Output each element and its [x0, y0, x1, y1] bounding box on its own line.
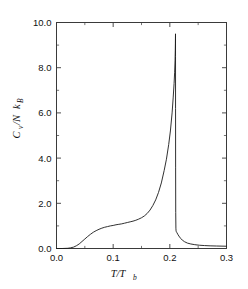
- y-axis-title-subscript-b: B: [16, 98, 25, 103]
- y-axis-title-c: C: [11, 131, 22, 139]
- x-tick-label: 0.3: [220, 252, 233, 263]
- heat-capacity-chart: 0.00.10.20.3 0.02.04.06.08.010.0 T/T b C…: [0, 0, 248, 289]
- x-axis-title: T/T b: [111, 268, 137, 282]
- x-tick-label: 0.1: [107, 252, 120, 263]
- y-axis-ticks: [57, 23, 227, 249]
- y-axis-title: C v /N k B: [11, 98, 25, 139]
- y-axis-title-k: k: [11, 104, 22, 109]
- y-tick-label: 8.0: [38, 62, 51, 73]
- x-axis-title-text: T/T: [111, 268, 127, 279]
- data-series-line: [57, 34, 227, 249]
- x-tick-label: 0.0: [50, 252, 63, 263]
- y-tick-label: 0.0: [38, 243, 51, 254]
- x-axis-title-subscript: b: [133, 273, 137, 282]
- x-axis-ticks: [57, 23, 227, 249]
- y-tick-label: 4.0: [38, 153, 51, 164]
- y-axis-tick-labels: 0.02.04.06.08.010.0: [33, 17, 52, 254]
- y-tick-label: 10.0: [33, 17, 52, 28]
- plot-frame: [57, 23, 227, 249]
- y-axis-title-over-n: /N: [11, 114, 22, 126]
- figure-container: 0.00.10.20.3 0.02.04.06.08.010.0 T/T b C…: [0, 0, 248, 289]
- x-axis-tick-labels: 0.00.10.20.3: [50, 252, 233, 263]
- y-tick-label: 6.0: [38, 107, 51, 118]
- x-tick-label: 0.2: [163, 252, 176, 263]
- y-tick-label: 2.0: [38, 198, 51, 209]
